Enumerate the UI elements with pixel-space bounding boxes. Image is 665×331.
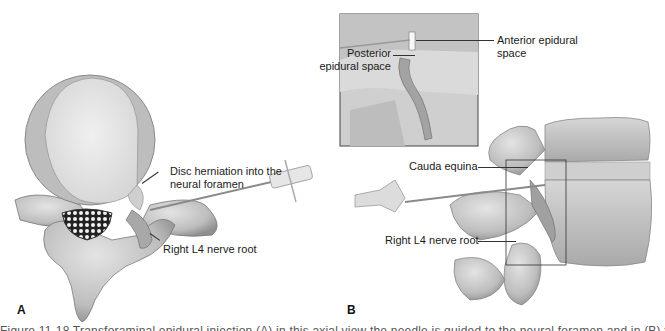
inset-magnified-view [340, 14, 478, 146]
panel-letter-b: B [347, 303, 356, 317]
label-disc-herniation: Disc herniation into the neural foramen [170, 165, 282, 191]
label-posterior-epidural-space: Posterior epidural space [290, 47, 391, 73]
label-cauda-equina: Cauda equina [409, 160, 478, 173]
label-disc-herniation-line1: Disc herniation into the [170, 165, 282, 178]
panel-letter-a: A [17, 303, 26, 317]
label-disc-herniation-line2: neural foramen [170, 178, 282, 191]
leader-nerve-root-b [478, 241, 516, 242]
label-right-l4-nerve-root-b: Right L4 nerve root [385, 234, 479, 247]
figure-caption: Figure 11-18 Transforaminal epidural inj… [0, 318, 665, 331]
label-anterior-line2: space [497, 47, 578, 60]
lateral-spine-b [450, 118, 652, 306]
leader-anterior [416, 40, 494, 41]
label-posterior-line1: Posterior [290, 47, 391, 60]
label-anterior-epidural-space: Anterior epidural space [497, 34, 578, 60]
leader-cauda-equina [478, 167, 528, 168]
figure-caption-text: Figure 11-18 Transforaminal epidural inj… [0, 324, 665, 331]
label-anterior-line1: Anterior epidural [497, 34, 578, 47]
label-right-l4-nerve-root-a: Right L4 nerve root [163, 243, 257, 256]
leader-posterior [393, 55, 415, 56]
label-posterior-line2: epidural space [290, 60, 391, 73]
axial-vertebra-a [15, 75, 217, 322]
